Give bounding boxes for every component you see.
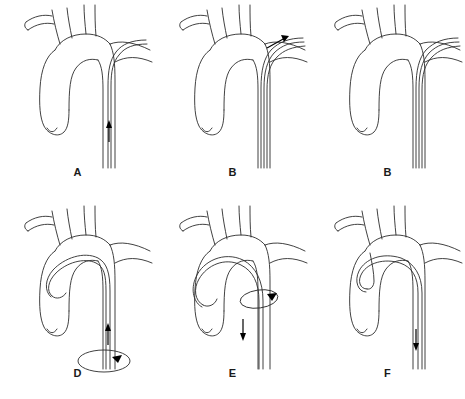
panel-label-b: B: [155, 166, 310, 178]
aortic-arch-outline: [180, 5, 307, 168]
aortic-arch-outline: [335, 206, 462, 369]
panel-d-illustration: [0, 201, 155, 376]
panel-label-a: A: [0, 166, 155, 178]
panel-f-illustration: [310, 201, 465, 376]
aortic-arch-outline: [335, 5, 462, 168]
catheter-looped-over-arch: [46, 255, 110, 369]
aortic-arch-outline: [180, 206, 307, 369]
figure-root: A: [0, 0, 465, 399]
panel-c: B: [310, 0, 465, 199]
panel-f: F: [310, 199, 465, 399]
panel-d: D: [0, 199, 155, 399]
panel-b: B: [155, 0, 310, 199]
panel-e-illustration: [155, 201, 310, 376]
panel-label-e: E: [155, 367, 310, 379]
panel-label-f: F: [310, 367, 465, 379]
panel-e: E: [155, 199, 310, 399]
panel-a: A: [0, 0, 155, 199]
panel-grid: A: [0, 0, 465, 399]
subclavian-entry-arrow: [267, 35, 289, 48]
panel-label-d: D: [0, 367, 155, 379]
aortic-arch-outline: [25, 5, 152, 168]
panel-a-illustration: [0, 0, 155, 175]
panel-b-illustration: [155, 0, 310, 175]
panel-label-c: B: [310, 166, 465, 178]
aortic-arch-outline: [25, 206, 152, 369]
panel-c-illustration: [310, 0, 465, 175]
catheter-engaging-brachiocephalic: [357, 253, 422, 369]
catheter-withdraw-arrow: [240, 319, 246, 341]
